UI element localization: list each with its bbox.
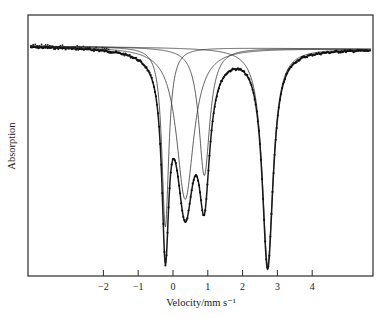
x-tick-label: 4 — [310, 281, 315, 292]
component-curve — [30, 46, 371, 265]
x-tick-label: 1 — [205, 281, 210, 292]
x-tick-label: −2 — [98, 281, 109, 292]
x-tick-label: 0 — [171, 281, 176, 292]
component-curve — [30, 47, 371, 200]
total-fit-curve — [30, 47, 371, 269]
component-curves — [30, 46, 371, 265]
x-tick-label: −1 — [133, 281, 144, 292]
mossbauer-chart: −2−101234 Velocity/mm s⁻¹ Absorption — [0, 0, 384, 318]
x-axis-ticks: −2−101234 — [98, 270, 315, 292]
x-axis-title: Velocity/mm s⁻¹ — [166, 297, 236, 308]
y-axis-title: Absorption — [6, 122, 17, 170]
x-tick-label: 3 — [275, 281, 280, 292]
x-tick-label: 2 — [240, 281, 245, 292]
component-curve — [30, 46, 371, 175]
data-points — [30, 44, 369, 269]
